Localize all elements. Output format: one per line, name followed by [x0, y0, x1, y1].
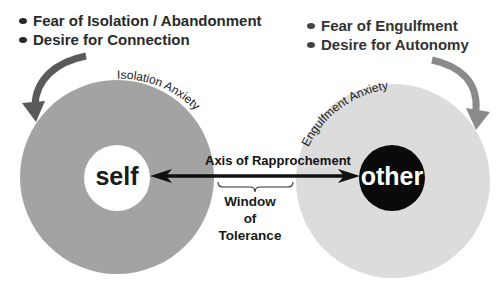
self-label: self — [84, 162, 150, 191]
window-line-3: Tolerance — [205, 227, 295, 244]
bullet-item: Fear of Engulfment — [307, 16, 469, 35]
window-line-2: of — [205, 210, 295, 227]
bullet-dot-icon — [307, 42, 315, 48]
window-line-1: Window — [205, 193, 295, 210]
window-of-tolerance-label: Window of Tolerance — [205, 193, 295, 244]
right-bullet-list: Fear of Engulfment Desire for Autonomy — [307, 16, 469, 54]
left-bullet-list: Fear of Isolation / Abandonment Desire f… — [19, 11, 262, 49]
bullet-dot-icon — [19, 18, 27, 24]
bullet-item: Desire for Connection — [19, 30, 262, 49]
axis-label: Axis of Rapprochement — [205, 153, 375, 168]
bullet-text: Fear of Engulfment — [321, 16, 458, 35]
bullet-item: Fear of Isolation / Abandonment — [19, 11, 262, 30]
bullet-text: Desire for Autonomy — [321, 35, 469, 54]
bullet-text: Desire for Connection — [33, 30, 190, 49]
bullet-dot-icon — [307, 23, 315, 29]
bullet-dot-icon — [19, 37, 27, 43]
bullet-text: Fear of Isolation / Abandonment — [33, 11, 262, 30]
bullet-item: Desire for Autonomy — [307, 35, 469, 54]
window-of-tolerance-bracket — [218, 182, 293, 192]
